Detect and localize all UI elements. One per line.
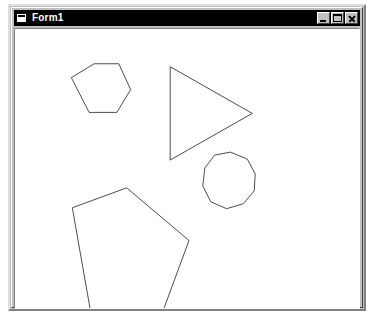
close-icon bbox=[346, 13, 357, 23]
form-window[interactable]: Form1 bbox=[8, 4, 366, 311]
shape-hexagon bbox=[71, 64, 130, 113]
window-controls bbox=[317, 12, 358, 24]
shape-pentagon bbox=[72, 188, 189, 308]
minimize-button[interactable] bbox=[317, 12, 330, 24]
maximize-button[interactable] bbox=[331, 12, 344, 24]
minimize-icon bbox=[318, 13, 329, 23]
form-client-area[interactable] bbox=[14, 28, 360, 309]
form-window-icon bbox=[16, 12, 28, 24]
shapes-canvas bbox=[15, 29, 359, 308]
window-title: Form1 bbox=[32, 10, 317, 26]
title-bar[interactable]: Form1 bbox=[14, 10, 360, 26]
shape-triangle bbox=[170, 67, 252, 160]
desktop-background: Form1 bbox=[0, 0, 376, 321]
maximize-icon bbox=[332, 13, 343, 23]
close-button[interactable] bbox=[345, 12, 358, 24]
shape-nonagon bbox=[203, 152, 255, 209]
form-window-inner-frame: Form1 bbox=[11, 7, 363, 308]
